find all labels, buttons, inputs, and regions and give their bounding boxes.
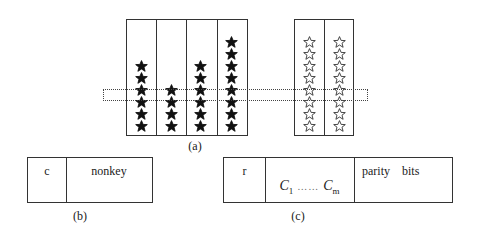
outline-star-icon (333, 120, 346, 132)
column-divider (156, 20, 157, 135)
filled-star-icon (225, 108, 238, 120)
outline-star-icon (303, 120, 316, 132)
outline-star-column-2 (333, 36, 346, 132)
ellipsis: …… (297, 181, 319, 192)
field-nonkey-label: nonkey (66, 164, 152, 179)
outline-star-icon (333, 60, 346, 72)
record-box-b: c nonkey (27, 157, 153, 203)
column-divider (186, 20, 187, 135)
left-column-group (126, 19, 248, 136)
cm-symbol: Cm (323, 178, 339, 193)
field-c1-cm-label: C1 …… Cm (265, 176, 354, 196)
field-c-label: c (28, 164, 66, 179)
outline-star-icon (333, 48, 346, 60)
outline-star-icon (333, 72, 346, 84)
filled-star-icon (194, 108, 207, 120)
c1-symbol: C1 (279, 178, 293, 193)
caption-a: (a) (180, 139, 210, 154)
outline-star-icon (303, 36, 316, 48)
field-r-label: r (224, 164, 265, 179)
field-c1-cm: C1 …… Cm (265, 158, 355, 202)
outline-star-column-1 (303, 36, 316, 132)
filled-star-icon (194, 120, 207, 132)
filled-star-icon (135, 120, 148, 132)
filled-star-icon (225, 36, 238, 48)
filled-star-column-4 (225, 36, 238, 132)
filled-star-icon (225, 60, 238, 72)
field-nonkey: nonkey (66, 158, 152, 202)
filled-star-icon (194, 72, 207, 84)
filled-star-icon (225, 48, 238, 60)
filled-star-icon (165, 120, 178, 132)
filled-star-icon (225, 120, 238, 132)
filled-star-icon (135, 60, 148, 72)
filled-star-icon (225, 72, 238, 84)
field-parity-bits-label: parity bits (362, 164, 452, 179)
right-column-group (294, 19, 354, 136)
outline-star-icon (303, 72, 316, 84)
caption-b: (b) (65, 209, 95, 224)
outline-star-icon (303, 48, 316, 60)
outline-star-icon (303, 108, 316, 120)
outline-star-icon (333, 36, 346, 48)
column-divider (217, 20, 218, 135)
highlighted-row-band (103, 89, 368, 101)
outline-star-icon (333, 108, 346, 120)
field-parity-bits: parity bits (354, 158, 452, 202)
record-box-c: r C1 …… Cm parity bits (223, 157, 453, 203)
caption-c: (c) (283, 209, 313, 224)
column-divider (324, 20, 325, 135)
field-r: r (224, 158, 266, 202)
outline-star-icon (303, 60, 316, 72)
filled-star-icon (165, 108, 178, 120)
filled-star-icon (194, 60, 207, 72)
filled-star-icon (135, 108, 148, 120)
field-c: c (28, 158, 67, 202)
filled-star-icon (135, 72, 148, 84)
